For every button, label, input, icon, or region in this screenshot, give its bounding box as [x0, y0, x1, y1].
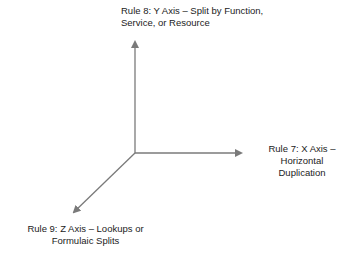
y-axis-label: Rule 8: Y Axis – Split by Function, Serv… [121, 5, 263, 29]
z-axis-label: Rule 9: Z Axis – Lookups or Formulaic Sp… [8, 223, 163, 247]
z-axis-arrow [74, 153, 135, 212]
x-axis-label-line1: Rule 7: X Axis – Horizontal [247, 143, 357, 167]
z-axis-label-line2: Formulaic Splits [8, 235, 163, 247]
x-axis-label: Rule 7: X Axis – Horizontal Duplication [247, 143, 357, 179]
z-axis-label-line1: Rule 9: Z Axis – Lookups or [8, 223, 163, 235]
axes-graphic [0, 0, 361, 259]
y-axis-label-line1: Rule 8: Y Axis – Split by Function, [121, 5, 263, 17]
x-axis-label-line2: Duplication [247, 167, 357, 179]
scale-cube-diagram: Rule 8: Y Axis – Split by Function, Serv… [0, 0, 361, 259]
y-axis-label-line2: Service, or Resource [121, 17, 263, 29]
